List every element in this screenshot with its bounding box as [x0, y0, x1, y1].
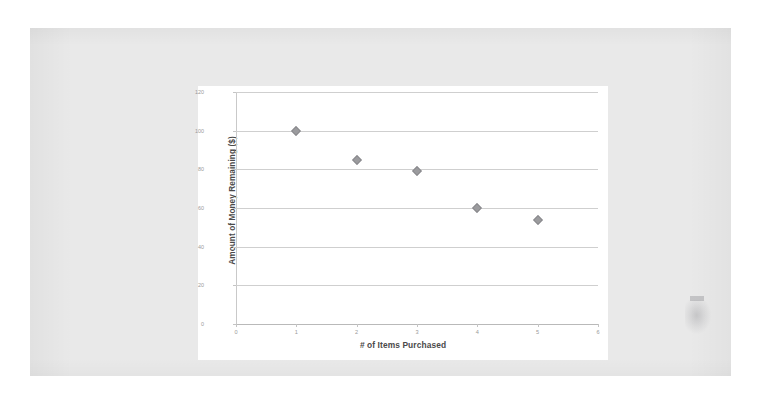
- y-tick-label: 120: [180, 89, 204, 95]
- y-tick-label: 20: [180, 282, 204, 288]
- x-tick-mark: [357, 324, 358, 327]
- x-tick-mark: [538, 324, 539, 327]
- scan-mark-artifact: [690, 296, 704, 301]
- x-tick-label: 3: [407, 329, 427, 335]
- gridline: [236, 247, 598, 248]
- x-tick-label: 1: [286, 329, 306, 335]
- y-tick-label: 40: [180, 244, 204, 250]
- x-tick-mark: [296, 324, 297, 327]
- x-tick-mark: [417, 324, 418, 327]
- data-point: [291, 126, 301, 136]
- data-point: [412, 166, 422, 176]
- x-tick-mark: [236, 324, 237, 327]
- x-tick-label: 0: [226, 329, 246, 335]
- y-tick-label: 60: [180, 205, 204, 211]
- gridline: [236, 208, 598, 209]
- y-tick-label: 100: [180, 128, 204, 134]
- x-axis-title: # of Items Purchased: [198, 340, 608, 350]
- chart-panel: Amount of Money Remaining ($) # of Items…: [198, 86, 608, 360]
- plot-area: [236, 92, 598, 324]
- x-tick-mark: [598, 324, 599, 327]
- y-tick-label: 0: [180, 321, 204, 327]
- data-point: [472, 203, 482, 213]
- x-tick-label: 5: [528, 329, 548, 335]
- data-point: [533, 215, 543, 225]
- x-tick-label: 2: [347, 329, 367, 335]
- gridline: [236, 92, 598, 93]
- y-tick-label: 80: [180, 166, 204, 172]
- scanned-document-page: Amount of Money Remaining ($) # of Items…: [30, 28, 731, 376]
- scan-smudge-artifact: [685, 300, 711, 334]
- gridline: [236, 285, 598, 286]
- scatter-chart: Amount of Money Remaining ($) # of Items…: [198, 86, 608, 360]
- data-point: [352, 155, 362, 165]
- x-tick-label: 6: [588, 329, 608, 335]
- x-tick-label: 4: [467, 329, 487, 335]
- x-tick-mark: [477, 324, 478, 327]
- screenshot-root: Amount of Money Remaining ($) # of Items…: [0, 0, 761, 403]
